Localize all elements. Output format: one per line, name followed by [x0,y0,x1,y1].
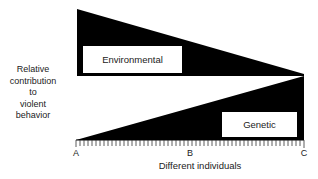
y-axis-label-line: Relative [0,64,66,76]
environmental-label: Environmental [83,46,182,73]
y-axis-label: Relative contribution to violent behavio… [0,64,66,122]
y-axis-label-line: to [0,87,66,99]
y-axis-label-line: contribution [0,76,66,88]
x-axis-ticks [76,140,304,148]
x-tick-label-c: C [299,148,309,158]
x-tick-label-b: B [185,148,195,158]
x-axis-label: Different individuals [100,160,300,171]
y-axis-label-line: violent [0,99,66,111]
genetic-label: Genetic [222,112,297,137]
x-tick-label-a: A [71,148,81,158]
y-axis-label-line: behavior [0,110,66,122]
